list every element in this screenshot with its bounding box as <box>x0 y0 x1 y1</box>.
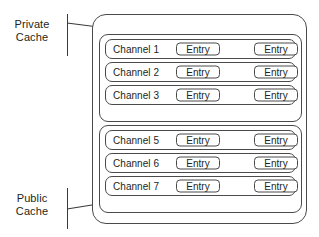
entry-slot[interactable]: Entry <box>254 66 298 79</box>
entry-label: Entry <box>186 44 210 54</box>
entry-slot[interactable]: Entry <box>254 89 298 102</box>
private-cache-bracket-bar <box>67 14 68 56</box>
entry-slot[interactable]: Entry <box>254 134 298 147</box>
public-cache-bracket-bar <box>67 188 68 229</box>
entry-label: Entry <box>264 181 288 191</box>
channel-name: Channel 2 <box>113 67 159 78</box>
entry-label: Entry <box>264 67 288 77</box>
entry-label: Entry <box>264 90 288 100</box>
channel-name: Channel 3 <box>113 90 159 101</box>
channel-name: Channel 6 <box>113 158 159 169</box>
channel-name: Channel 7 <box>113 181 159 192</box>
entry-label: Entry <box>186 90 210 100</box>
private-cache-label: Private Cache <box>6 18 58 44</box>
entry-label: Entry <box>186 158 210 168</box>
entry-slot[interactable]: Entry <box>176 134 220 147</box>
channel-name: Channel 1 <box>113 44 159 55</box>
channel-row[interactable]: Channel 3 Entry Entry <box>105 85 296 105</box>
entry-slot[interactable]: Entry <box>176 43 220 56</box>
cache-diagram: Private Cache Public Cache Channel 1 Ent… <box>0 0 319 237</box>
public-cache-group: Channel 5 Entry Entry Channel 6 Entry En… <box>99 125 302 213</box>
channel-row[interactable]: Channel 6 Entry Entry <box>105 153 296 173</box>
entry-slot[interactable]: Entry <box>176 180 220 193</box>
channel-row[interactable]: Channel 7 Entry Entry <box>105 176 296 196</box>
cache-container: Channel 1 Entry Entry Channel 2 Entry En… <box>92 14 307 224</box>
entry-label: Entry <box>264 135 288 145</box>
entry-slot[interactable]: Entry <box>254 180 298 193</box>
private-cache-group: Channel 1 Entry Entry Channel 2 Entry En… <box>99 34 302 122</box>
entry-slot[interactable]: Entry <box>176 66 220 79</box>
entry-label: Entry <box>186 67 210 77</box>
entry-slot[interactable]: Entry <box>254 157 298 170</box>
entry-slot[interactable]: Entry <box>176 157 220 170</box>
channel-row[interactable]: Channel 2 Entry Entry <box>105 62 296 82</box>
entry-label: Entry <box>186 135 210 145</box>
channel-name: Channel 5 <box>113 135 159 146</box>
entry-label: Entry <box>264 44 288 54</box>
entry-label: Entry <box>264 158 288 168</box>
entry-label: Entry <box>186 181 210 191</box>
public-cache-label: Public Cache <box>6 192 58 218</box>
entry-slot[interactable]: Entry <box>254 43 298 56</box>
channel-row[interactable]: Channel 1 Entry Entry <box>105 39 296 59</box>
channel-row[interactable]: Channel 5 Entry Entry <box>105 130 296 150</box>
entry-slot[interactable]: Entry <box>176 89 220 102</box>
